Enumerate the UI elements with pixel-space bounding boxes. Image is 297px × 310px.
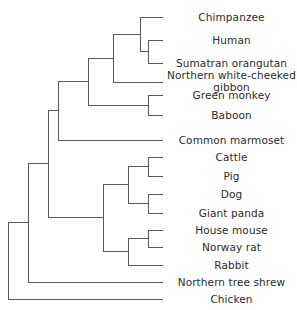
leaf-label-house-mouse: House mouse: [166, 224, 297, 236]
leaf-label-chimpanzee: Chimpanzee: [166, 11, 297, 23]
gibbon-label-line1: Northern white-cheeked: [167, 69, 296, 81]
leaf-label-green-monkey: Green monkey: [166, 89, 297, 101]
leaf-label-northern-tree-shrew: Northern tree shrew: [166, 276, 297, 288]
leaf-label-norway-rat: Norway rat: [166, 241, 297, 253]
leaf-label-rabbit: Rabbit: [166, 259, 297, 271]
phylogenetic-tree-figure: Chimpanzee Human Sumatran orangutan Nort…: [0, 0, 297, 310]
leaf-label-chicken: Chicken: [166, 293, 297, 305]
leaf-label-dog: Dog: [166, 188, 297, 200]
leaf-label-column: Chimpanzee Human Sumatran orangutan Nort…: [166, 0, 297, 310]
leaf-label-cattle: Cattle: [166, 151, 297, 163]
leaf-label-pig: Pig: [166, 170, 297, 182]
leaf-label-giant-panda: Giant panda: [166, 207, 297, 219]
leaf-label-sumatran-orangutan: Sumatran orangutan: [166, 57, 297, 69]
leaf-label-common-marmoset: Common marmoset: [166, 134, 297, 146]
leaf-label-human: Human: [166, 34, 297, 46]
leaf-label-baboon: Baboon: [166, 109, 297, 121]
